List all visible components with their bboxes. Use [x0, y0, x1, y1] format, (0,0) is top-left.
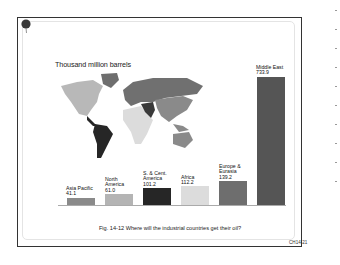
- bar-middle-east: [257, 77, 285, 205]
- bar-asia-pacific: [67, 198, 95, 205]
- world-map: [57, 72, 257, 164]
- bar-label-north-america: North America 61.0: [105, 177, 124, 193]
- bar-label-asia-pacific: Asia Pacific 41.1: [66, 186, 93, 197]
- bar-north-america: [105, 194, 133, 205]
- bar-africa: [181, 186, 209, 205]
- bar-label-middle-east: Middle East 733.9: [256, 65, 283, 76]
- chart-baseline: [58, 205, 286, 206]
- margin-ticks: [335, 0, 340, 265]
- pushpin-icon: [20, 19, 34, 33]
- bar-label-south-central-america: S. & Cent. America 101.2: [143, 171, 167, 187]
- slide-code: CH14-21: [289, 240, 307, 245]
- bar-europe-eurasia: [219, 181, 247, 205]
- bar-label-europe-eurasia: Europe & Eurasia 139.2: [219, 164, 241, 180]
- bar-south-central-america: [143, 188, 171, 205]
- chart-title: Thousand million barrels: [55, 60, 131, 69]
- figure-caption: Fig. 14-12 Where will the industrial cou…: [0, 225, 340, 231]
- bar-label-africa: Africa 112.2: [181, 175, 194, 186]
